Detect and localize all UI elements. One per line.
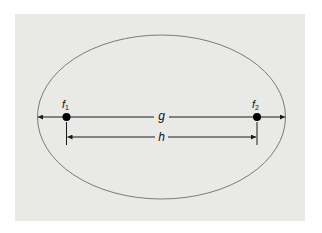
focal-distance-label: h bbox=[158, 130, 165, 144]
ellipse-diagram: f1 f2 g h bbox=[0, 0, 322, 233]
focus-2-dot bbox=[253, 113, 261, 121]
major-axis-label: g bbox=[158, 109, 165, 123]
focus-1-dot bbox=[63, 113, 71, 121]
